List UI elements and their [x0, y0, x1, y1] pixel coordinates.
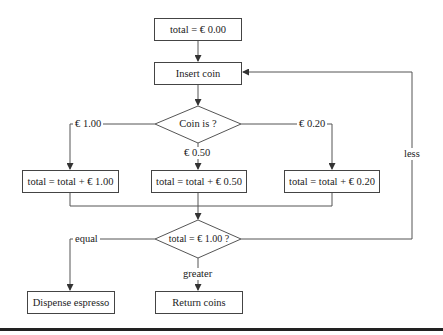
total-decision-label: total = € 1.00 ?: [169, 233, 229, 245]
return-coins-node: Return coins: [155, 291, 243, 314]
insert-coin-label: Insert coin: [176, 68, 221, 79]
add-100-label: total = total + € 1.00: [28, 176, 114, 187]
edge-label-coin-050: € 0.50: [182, 147, 212, 159]
edge-label-coin-020: € 0.20: [297, 118, 327, 130]
dispense-label: Dispense espresso: [33, 297, 110, 308]
flow-connectors: [0, 0, 443, 335]
edge-label-greater: greater: [181, 268, 214, 280]
add-050-label: total = total + € 0.50: [156, 176, 242, 187]
add-100-node: total = total + € 1.00: [22, 170, 119, 193]
insert-coin-node: Insert coin: [154, 62, 242, 85]
dispense-node: Dispense espresso: [27, 291, 115, 314]
edge-label-equal: equal: [73, 233, 100, 245]
return-coins-label: Return coins: [172, 297, 225, 308]
edge-label-less: less: [402, 148, 422, 160]
add-020-node: total = total + € 0.20: [284, 170, 380, 193]
edge-label-coin-100: € 1.00: [73, 118, 103, 130]
init-node: total = € 0.00: [154, 18, 242, 41]
bottom-rule: [0, 328, 443, 331]
coin-decision-label: Coin is ?: [179, 118, 216, 130]
add-020-label: total = total + € 0.20: [289, 176, 375, 187]
add-050-node: total = total + € 0.50: [151, 170, 247, 193]
init-node-label: total = € 0.00: [170, 24, 226, 35]
